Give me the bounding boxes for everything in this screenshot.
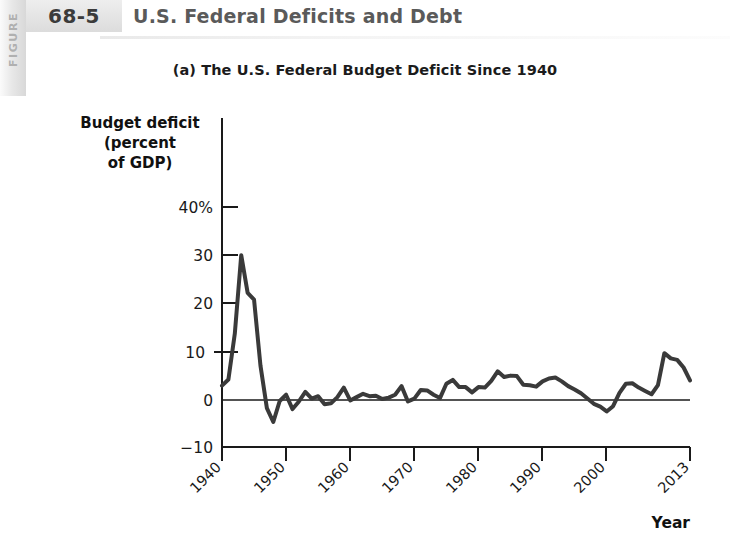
- x-tick-label-1970: 1970: [379, 459, 416, 496]
- x-tick-label-1960: 1960: [315, 459, 352, 496]
- y-axis-label-line1: Budget deficit: [80, 114, 199, 132]
- y-tick-label-10: 10: [185, 344, 205, 362]
- y-tick-label-40: 40%: [179, 199, 213, 217]
- x-tick-label-1950: 1950: [251, 459, 288, 496]
- y-tick-label-20: 20: [193, 295, 213, 313]
- x-axis-ticks: [222, 447, 690, 461]
- y-tick-label-neg10: −10: [180, 439, 213, 457]
- x-tick-label-2013: 2013: [655, 459, 692, 496]
- x-tick-label-1990: 1990: [507, 459, 544, 496]
- y-axis-label-line2: (percent: [104, 134, 176, 152]
- y-tick-label-30: 30: [193, 247, 213, 265]
- y-tick-label-0: 0: [203, 392, 213, 410]
- x-axis-label: Year: [651, 514, 691, 532]
- deficit-series-line: [222, 255, 690, 422]
- x-tick-label-2000: 2000: [571, 459, 608, 496]
- y-axis-label-line3: of GDP): [108, 154, 173, 172]
- deficit-line-chart: Budget deficit (percent of GDP) 40% 30 2…: [0, 0, 730, 550]
- x-tick-label-1980: 1980: [443, 459, 480, 496]
- x-tick-label-1940: 1940: [187, 459, 224, 496]
